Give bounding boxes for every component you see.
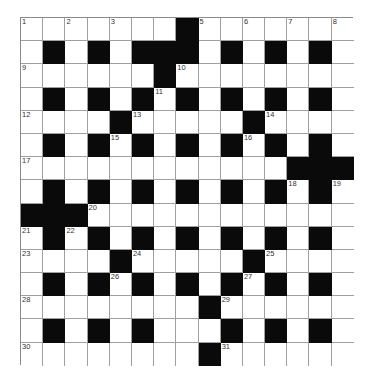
letter-cell[interactable] xyxy=(243,319,265,342)
letter-cell[interactable] xyxy=(287,273,309,296)
letter-cell[interactable] xyxy=(199,180,221,203)
letter-cell[interactable]: 3 xyxy=(110,18,132,41)
letter-cell[interactable] xyxy=(110,296,132,319)
letter-cell[interactable]: 29 xyxy=(221,296,243,319)
letter-cell[interactable] xyxy=(243,180,265,203)
letter-cell[interactable]: 17 xyxy=(21,157,43,180)
letter-cell[interactable] xyxy=(287,296,309,319)
letter-cell[interactable] xyxy=(199,157,221,180)
letter-cell[interactable] xyxy=(287,64,309,87)
letter-cell[interactable] xyxy=(265,157,287,180)
letter-cell[interactable] xyxy=(287,88,309,111)
letter-cell[interactable] xyxy=(132,64,154,87)
letter-cell[interactable] xyxy=(332,88,354,111)
letter-cell[interactable]: 23 xyxy=(21,250,43,273)
letter-cell[interactable] xyxy=(309,343,331,366)
letter-cell[interactable] xyxy=(199,250,221,273)
letter-cell[interactable] xyxy=(154,227,176,250)
letter-cell[interactable] xyxy=(43,296,65,319)
letter-cell[interactable] xyxy=(221,111,243,134)
letter-cell[interactable] xyxy=(176,343,198,366)
letter-cell[interactable]: 11 xyxy=(154,88,176,111)
letter-cell[interactable] xyxy=(110,343,132,366)
letter-cell[interactable] xyxy=(287,250,309,273)
letter-cell[interactable] xyxy=(65,111,87,134)
letter-cell[interactable] xyxy=(154,180,176,203)
letter-cell[interactable] xyxy=(88,296,110,319)
letter-cell[interactable] xyxy=(65,134,87,157)
letter-cell[interactable] xyxy=(309,64,331,87)
letter-cell[interactable] xyxy=(43,64,65,87)
letter-cell[interactable] xyxy=(132,157,154,180)
letter-cell[interactable] xyxy=(110,88,132,111)
letter-cell[interactable] xyxy=(265,296,287,319)
letter-cell[interactable] xyxy=(65,250,87,273)
letter-cell[interactable] xyxy=(110,64,132,87)
letter-cell[interactable]: 6 xyxy=(243,18,265,41)
letter-cell[interactable] xyxy=(154,111,176,134)
letter-cell[interactable] xyxy=(221,250,243,273)
letter-cell[interactable] xyxy=(265,18,287,41)
letter-cell[interactable] xyxy=(154,296,176,319)
letter-cell[interactable] xyxy=(21,273,43,296)
letter-cell[interactable] xyxy=(110,227,132,250)
letter-cell[interactable]: 28 xyxy=(21,296,43,319)
letter-cell[interactable] xyxy=(65,180,87,203)
letter-cell[interactable] xyxy=(332,319,354,342)
letter-cell[interactable] xyxy=(65,273,87,296)
letter-cell[interactable] xyxy=(332,343,354,366)
letter-cell[interactable] xyxy=(243,204,265,227)
letter-cell[interactable] xyxy=(332,64,354,87)
letter-cell[interactable]: 15 xyxy=(110,134,132,157)
letter-cell[interactable] xyxy=(287,134,309,157)
letter-cell[interactable] xyxy=(199,64,221,87)
letter-cell[interactable] xyxy=(110,319,132,342)
letter-cell[interactable] xyxy=(221,64,243,87)
letter-cell[interactable] xyxy=(110,157,132,180)
letter-cell[interactable] xyxy=(65,41,87,64)
letter-cell[interactable] xyxy=(43,111,65,134)
letter-cell[interactable] xyxy=(65,296,87,319)
letter-cell[interactable] xyxy=(21,88,43,111)
letter-cell[interactable] xyxy=(243,343,265,366)
letter-cell[interactable] xyxy=(176,157,198,180)
letter-cell[interactable] xyxy=(199,41,221,64)
letter-cell[interactable] xyxy=(287,343,309,366)
letter-cell[interactable] xyxy=(132,204,154,227)
letter-cell[interactable]: 31 xyxy=(221,343,243,366)
letter-cell[interactable] xyxy=(21,134,43,157)
letter-cell[interactable]: 30 xyxy=(21,343,43,366)
letter-cell[interactable]: 9 xyxy=(21,64,43,87)
letter-cell[interactable] xyxy=(110,41,132,64)
letter-cell[interactable] xyxy=(21,41,43,64)
letter-cell[interactable] xyxy=(132,296,154,319)
letter-cell[interactable] xyxy=(132,343,154,366)
letter-cell[interactable] xyxy=(332,204,354,227)
letter-cell[interactable] xyxy=(154,134,176,157)
letter-cell[interactable] xyxy=(199,111,221,134)
letter-cell[interactable] xyxy=(154,273,176,296)
letter-cell[interactable] xyxy=(176,204,198,227)
letter-cell[interactable] xyxy=(287,111,309,134)
letter-cell[interactable]: 1 xyxy=(21,18,43,41)
letter-cell[interactable] xyxy=(332,41,354,64)
letter-cell[interactable] xyxy=(43,18,65,41)
letter-cell[interactable] xyxy=(88,18,110,41)
letter-cell[interactable] xyxy=(332,134,354,157)
letter-cell[interactable] xyxy=(243,296,265,319)
letter-cell[interactable] xyxy=(154,319,176,342)
letter-cell[interactable]: 8 xyxy=(332,18,354,41)
letter-cell[interactable]: 5 xyxy=(199,18,221,41)
letter-cell[interactable] xyxy=(243,64,265,87)
letter-cell[interactable] xyxy=(287,227,309,250)
letter-cell[interactable] xyxy=(154,343,176,366)
letter-cell[interactable] xyxy=(199,134,221,157)
letter-cell[interactable] xyxy=(332,111,354,134)
letter-cell[interactable] xyxy=(154,18,176,41)
letter-cell[interactable] xyxy=(309,204,331,227)
letter-cell[interactable] xyxy=(176,319,198,342)
letter-cell[interactable] xyxy=(65,319,87,342)
letter-cell[interactable] xyxy=(43,250,65,273)
letter-cell[interactable] xyxy=(243,41,265,64)
letter-cell[interactable] xyxy=(88,64,110,87)
